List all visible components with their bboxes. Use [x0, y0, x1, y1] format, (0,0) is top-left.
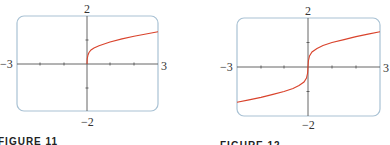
curve-cube-root-positive: [87, 32, 158, 64]
figure-caption: FIGURE 12: [220, 140, 281, 145]
x-min-label: −3: [220, 61, 233, 73]
figure-12: 2 −3 3 −2 FIGURE 12: [195, 0, 390, 145]
x-max-label: 3: [383, 62, 389, 74]
y-max-label: 2: [305, 5, 311, 17]
figure-caption: FIGURE 11: [0, 136, 58, 145]
x-max-label: 3: [161, 60, 167, 72]
figure-11: 2 −3 3 −2 FIGURE 11: [0, 0, 195, 145]
y-max-label: 2: [84, 3, 90, 15]
y-min-label: −2: [302, 119, 315, 131]
y-min-label: −2: [81, 116, 94, 128]
x-min-label: −3: [0, 58, 13, 70]
